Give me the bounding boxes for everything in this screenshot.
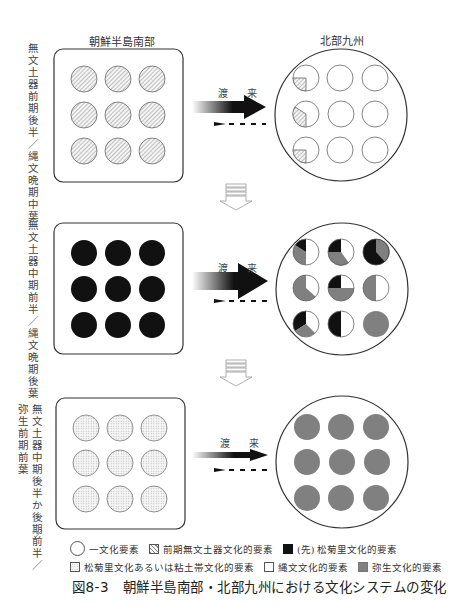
gray-swatch-icon (358, 562, 368, 572)
kyushu-element-pie (363, 311, 389, 337)
arrival-label: 渡 来 (218, 85, 265, 100)
legend-label: 松菊里文化あるいは粘土帯文化的要素 (84, 560, 254, 574)
legend-item: 松菊里文化あるいは粘土帯文化的要素 (70, 560, 254, 574)
return-arrow-dashed (190, 468, 268, 472)
kyushu-element-pie (293, 239, 319, 265)
stage-3 (56, 396, 408, 529)
period-label-stage-2: 無文土器中期前半／縄文晩期後葉 (26, 220, 38, 400)
figure-caption: 図8-3 朝鮮半島南部・北部九州における文化システムの変化 (72, 576, 447, 596)
period-label-stage-3-line1: 無文土器中期後半か後期前半／ (30, 404, 42, 572)
white-swatch-icon (264, 562, 274, 572)
kyushu-element-pie (293, 311, 319, 337)
kyushu-element-pie (363, 275, 389, 301)
legend-row-1: 一文化要素 前期無文土器文化的要素 (先) 松菊里文化的要素 (70, 541, 407, 556)
kyushu-label: 北部九州 (320, 32, 364, 48)
korea-label: 朝鮮半島南部 (89, 33, 155, 49)
stage-1 (54, 49, 407, 182)
transition-arrow-2 (220, 360, 252, 386)
kyushu-element-pie (328, 311, 354, 337)
kyushu-elements (293, 65, 388, 163)
arrival-arrow-light (192, 449, 268, 461)
return-arrow-dashed (190, 122, 266, 126)
legend-item: 縄文文化的要素 (264, 560, 348, 574)
period-label-stage-3-line2: 弥生前期前葉 (16, 404, 28, 476)
kyushu-elements (294, 414, 390, 511)
legend-label: 一文化要素 (89, 542, 139, 556)
dotted-swatch-icon (70, 562, 80, 572)
circle-swatch-icon (70, 541, 85, 556)
kyushu-element-pie (363, 239, 390, 265)
legend-label: 縄文文化的要素 (278, 560, 348, 574)
korea-elements (71, 66, 165, 164)
kyushu-element-pie (328, 275, 354, 301)
legend-item: 一文化要素 (70, 541, 139, 556)
arrival-label: 渡 来 (220, 435, 267, 450)
return-arrow-dashed (190, 299, 268, 303)
hatched-swatch-icon (149, 544, 159, 554)
period-label-stage-1: 無文土器前期後半／縄文晩期中葉 (26, 43, 38, 223)
kyushu-element-pie (293, 275, 320, 301)
korea-elements (71, 240, 165, 338)
arrival-label: 渡 来 (218, 260, 265, 275)
legend-item: (先) 松菊里文化的要素 (283, 542, 397, 556)
stage-2 (54, 223, 408, 355)
black-swatch-icon (283, 544, 293, 554)
legend-label: (先) 松菊里文化的要素 (297, 542, 397, 556)
kyushu-element-pie (328, 239, 354, 266)
transition-arrow-1 (220, 184, 252, 210)
legend-label: 弥生文化的要素 (372, 560, 442, 574)
legend-label: 前期無文土器文化的要素 (163, 542, 273, 556)
legend-row-2: 松菊里文化あるいは粘土帯文化的要素 縄文文化的要素 弥生文化的要素 (70, 560, 451, 574)
legend-item: 前期無文土器文化的要素 (149, 542, 273, 556)
legend-item: 弥生文化的要素 (358, 560, 442, 574)
korea-elements (73, 415, 167, 512)
